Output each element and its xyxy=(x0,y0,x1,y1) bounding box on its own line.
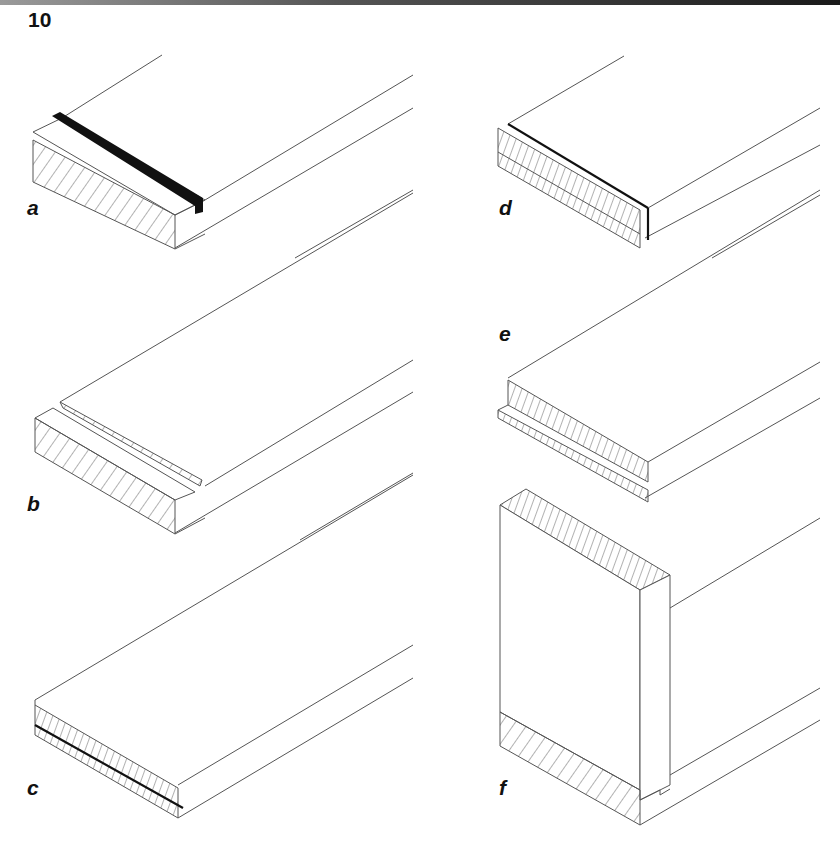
panel-c-drawing xyxy=(35,475,413,818)
joint-diagram xyxy=(0,0,840,841)
panel-e-drawing xyxy=(498,190,820,502)
panel-a-drawing xyxy=(33,55,413,258)
panel-b-drawing xyxy=(35,193,413,540)
panel-f-drawing xyxy=(500,489,820,825)
panel-d-drawing xyxy=(498,56,820,258)
